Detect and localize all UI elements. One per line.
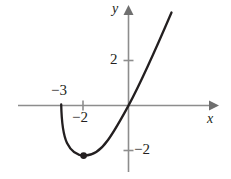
y-axis-arrowhead bbox=[124, 5, 134, 15]
y-tick-label-2: 2 bbox=[110, 52, 118, 67]
minimum-point-marker bbox=[80, 152, 87, 159]
plot-canvas bbox=[0, 0, 231, 179]
y-tick-label-minus-2: −2 bbox=[134, 142, 150, 157]
y-axis-label: y bbox=[112, 2, 118, 16]
x-tick-label-minus-3: −3 bbox=[51, 83, 67, 98]
plotted-curve bbox=[61, 13, 171, 156]
x-axis-label: x bbox=[207, 112, 213, 126]
x-axis-arrowhead bbox=[209, 101, 219, 111]
x-tick-label-minus-2: −2 bbox=[72, 110, 88, 125]
graph-figure: y x −3 −2 2 −2 bbox=[0, 0, 231, 179]
